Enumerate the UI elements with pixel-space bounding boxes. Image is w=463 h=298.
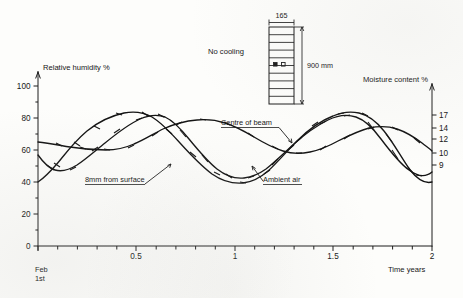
chart-page: 100 80 60 40 20 0 Relative humidity % (0, 0, 463, 298)
x-tick-label-0p5: 0.5 (130, 252, 142, 261)
y2-tick-label-9: 9 (439, 161, 444, 170)
y-axis-title: Relative humidity % (43, 63, 110, 72)
inset-probe-filled (274, 63, 278, 67)
y2-tick-label-10: 10 (439, 149, 449, 158)
y2-tick-label-17: 17 (439, 111, 449, 120)
annotation-8mm-from-surface-text: 8mm from surface (85, 175, 145, 184)
y-tick-label-0: 0 (26, 242, 31, 251)
origin-annotation-line1: Feb (35, 265, 48, 274)
annotation-ambient-air: Ambient air (252, 166, 302, 185)
annotation-centre-of-beam-text: Centre of beam (221, 118, 272, 127)
y-tick-label-60: 60 (21, 146, 31, 155)
y-tick-label-20: 20 (21, 210, 31, 219)
y-tick-label-100: 100 (17, 82, 31, 91)
inset-width-dimension: 165 (269, 11, 294, 26)
x-tick-label-2: 2 (430, 252, 435, 261)
origin-annotation-line2: 1st (35, 274, 45, 283)
x-axis-title: Time years (388, 265, 425, 274)
y2-axis-title: Moisture content % (363, 75, 428, 84)
x-tick-label-1: 1 (233, 252, 238, 261)
y2-tick-label-12: 12 (439, 135, 449, 144)
y2-tick-label-14: 14 (439, 124, 449, 133)
inset-height-label: 900 mm (307, 61, 333, 70)
inset-beam-diagram: 165 (208, 11, 333, 104)
x-tick-label-1p5: 1.5 (327, 252, 339, 261)
inset-width-label: 165 (276, 11, 288, 20)
chart-canvas: 100 80 60 40 20 0 Relative humidity % (0, 0, 463, 298)
y-tick-label-80: 80 (21, 114, 31, 123)
inset-height-dimension: 900 mm (294, 27, 333, 104)
annotation-8mm-from-surface: 8mm from surface (85, 164, 171, 185)
origin-annotation: Feb 1st (35, 265, 48, 283)
right-axis: 17 14 12 10 9 Moisture content % (363, 75, 449, 246)
y-tick-label-40: 40 (21, 178, 31, 187)
annotation-ambient-air-text: Ambient air (263, 175, 301, 184)
x-axis: 0.5 1 1.5 2 Time years (38, 246, 435, 274)
inset-note-label: No cooling (208, 47, 244, 56)
